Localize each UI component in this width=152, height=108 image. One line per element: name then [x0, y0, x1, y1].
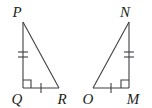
vertex-label-q: Q	[12, 91, 23, 107]
segment-pr	[23, 22, 59, 88]
vertex-label-o: O	[83, 91, 94, 107]
vertex-label-m: M	[126, 91, 141, 107]
geometry-figure-canvas: P Q R N O M	[0, 0, 152, 108]
right-angle-marker-m	[121, 80, 129, 88]
right-angle-marker-q	[23, 80, 31, 88]
triangle-pqr: P Q R	[11, 4, 66, 107]
triangle-nom: N O M	[83, 4, 141, 107]
vertex-label-p: P	[11, 4, 21, 20]
vertex-label-n: N	[119, 4, 131, 20]
triangles-diagram: P Q R N O M	[0, 0, 152, 108]
segment-no	[93, 22, 129, 88]
vertex-label-r: R	[56, 91, 66, 107]
